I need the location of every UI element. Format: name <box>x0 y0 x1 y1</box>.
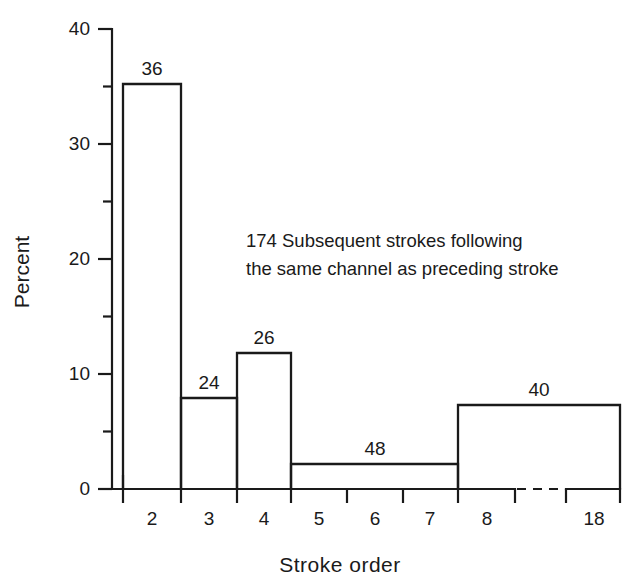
stroke-order-histogram: 40 30 20 10 0 Percent <box>0 0 644 585</box>
x-tick-label-6: 6 <box>370 508 381 529</box>
y-axis: 40 30 20 10 0 Percent <box>10 18 112 499</box>
y-axis-title: Percent <box>10 236 33 309</box>
chart-container: 40 30 20 10 0 Percent <box>0 0 644 585</box>
bar-label-1: 36 <box>141 58 162 79</box>
bar-2 <box>181 398 237 489</box>
x-axis: 2 3 4 5 6 7 8 18 Stroke order <box>112 475 620 576</box>
y-tick-label-20: 20 <box>69 248 90 269</box>
x-tick-label-7: 7 <box>425 508 436 529</box>
bar-label-3: 26 <box>253 327 274 348</box>
annotation-line-2: the same channel as preceding stroke <box>246 258 559 279</box>
x-tick-label-3: 3 <box>204 508 215 529</box>
y-tick-label-30: 30 <box>69 133 90 154</box>
y-tick-label-40: 40 <box>69 18 90 39</box>
x-axis-title: Stroke order <box>279 553 401 576</box>
bar-label-2: 24 <box>198 372 220 393</box>
bar-label-4: 48 <box>364 438 385 459</box>
x-tick-label-2: 2 <box>147 508 158 529</box>
plot-annotation: 174 Subsequent strokes following the sam… <box>246 230 559 279</box>
bar-3 <box>237 353 291 489</box>
x-tick-label-18: 18 <box>583 508 604 529</box>
x-tick-label-4: 4 <box>259 508 270 529</box>
bar-label-5: 40 <box>528 379 549 400</box>
x-tick-label-8: 8 <box>482 508 493 529</box>
bar-5 <box>458 405 620 489</box>
bar-4 <box>291 464 458 489</box>
x-tick-label-5: 5 <box>314 508 325 529</box>
annotation-line-1: 174 Subsequent strokes following <box>246 230 523 251</box>
bar-1 <box>123 84 181 489</box>
y-tick-label-0: 0 <box>79 478 90 499</box>
bar-series <box>123 84 620 489</box>
y-tick-label-10: 10 <box>69 363 90 384</box>
